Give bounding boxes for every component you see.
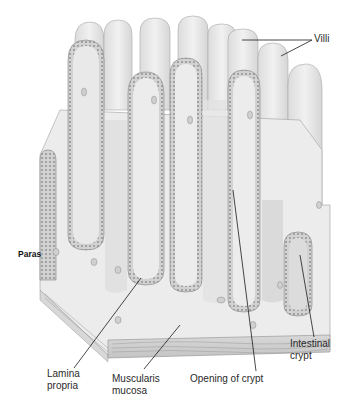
label-opening-of-crypt: Opening of crypt [190, 373, 263, 385]
label-muscularis-mucosa: Muscularis mucosa [112, 373, 160, 397]
label-villi: Villi [314, 33, 329, 45]
label-paras: Paras [18, 248, 41, 260]
label-lamina-propria: Lamina propria [47, 368, 80, 392]
label-intestinal-crypt: Intestinal crypt [290, 338, 330, 362]
leader-villi-2 [281, 40, 312, 56]
